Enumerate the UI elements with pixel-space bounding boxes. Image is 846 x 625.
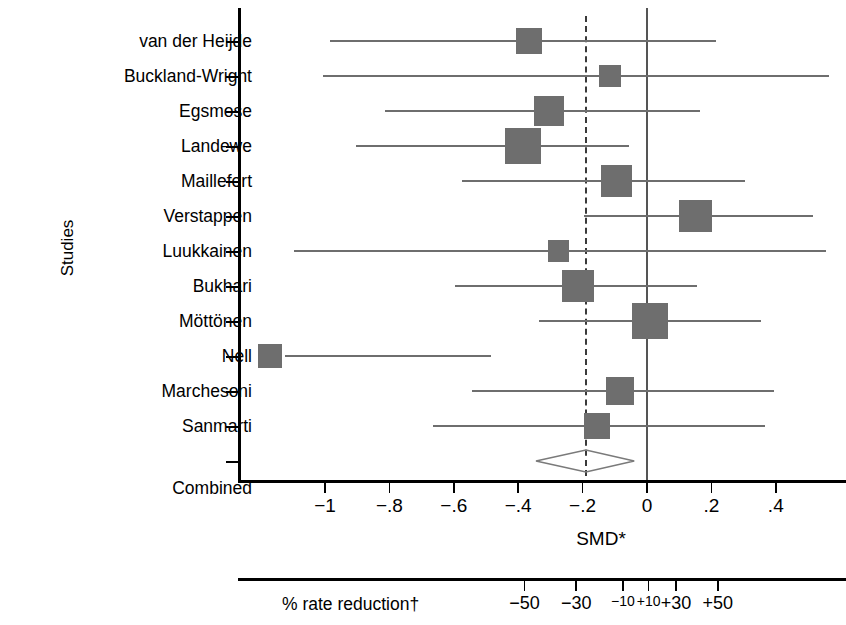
y-axis-tick [226,181,238,183]
x-tick-label: −.2 [569,495,596,517]
study-label: Egsmose [179,103,252,121]
study-label: Sanmarti [182,418,252,436]
effect-size-marker [606,377,634,405]
effect-size-marker [632,303,668,339]
rate-axis-tick [717,580,719,591]
y-axis-line [238,8,241,480]
rate-axis-tick [524,580,526,591]
y-axis-tick [226,251,238,253]
effect-size-marker [534,96,564,126]
confidence-interval-line [285,355,491,357]
x-tick-label: .4 [768,495,784,517]
y-axis-tick [226,76,238,78]
rate-tick-label: −10 [611,593,635,609]
effect-size-marker [548,240,570,262]
effect-size-marker [562,270,594,302]
x-tick-label: −.4 [505,495,532,517]
y-axis-tick [226,426,238,428]
effect-size-marker [599,65,621,87]
effect-size-marker [679,200,712,233]
effect-size-marker [516,28,542,54]
rate-tick-label: +30 [661,593,692,614]
study-label: Möttönen [179,313,252,331]
null-reference-line [646,8,648,480]
x-axis-tick [389,482,391,493]
confidence-interval-line [323,75,829,77]
rate-tick-label: +10 [637,593,661,609]
rate-axis-tick [675,580,677,591]
y-axis-tick [226,356,238,358]
y-axis-tick [226,146,238,148]
combined-diamond [532,447,638,475]
x-axis-line [238,480,846,483]
x-tick-label: .2 [703,495,719,517]
x-axis-tick [646,482,648,493]
rate-tick-label: −30 [561,593,592,614]
confidence-interval-line [356,145,630,147]
forest-plot: Studies van der Heijde Buckland-Wright E… [0,0,846,625]
x-axis-tick [324,482,326,493]
effect-size-marker [601,165,632,196]
x-axis-tick [453,482,455,493]
rate-axis-tick [622,580,624,591]
y-axis-tick [226,216,238,218]
rate-tick-label: −50 [509,593,540,614]
y-axis-title: Studies [58,178,78,318]
y-axis-tick [226,391,238,393]
y-axis-tick [226,461,238,463]
x-tick-label: 0 [642,495,653,517]
x-axis-tick [711,482,713,493]
rate-tick-label: +50 [703,593,734,614]
x-tick-label: −.8 [376,495,403,517]
pooled-reference-line [585,16,587,476]
y-axis-tick [226,286,238,288]
effect-size-marker [505,128,541,164]
effect-size-marker [584,413,611,440]
study-label: Maillefert [181,173,252,191]
x-tick-label: −.6 [440,495,467,517]
y-axis-tick [226,41,238,43]
combined-label: Combined [172,480,252,498]
x-axis-tick [582,482,584,493]
x-axis-tick [517,482,519,493]
y-axis-tick [226,111,238,113]
y-axis-tick [226,321,238,323]
study-label: Landewe [181,138,252,156]
x-tick-label: −1 [314,495,336,517]
x-axis-title: SMD* [576,528,626,550]
rate-axis-tick [648,580,650,591]
study-label: Bukhari [193,278,252,296]
rate-axis-line [238,578,846,581]
x-axis-tick [775,482,777,493]
rate-axis-label: % rate reduction† [282,594,419,615]
rate-axis-tick [575,580,577,591]
effect-size-marker [258,344,282,368]
